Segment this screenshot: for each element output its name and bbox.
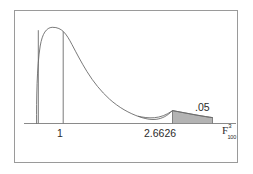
- axis-variable-label: F3100: [222, 124, 240, 138]
- axis-variable-superscript: 3: [228, 123, 231, 129]
- f-distribution-plot: [0, 0, 253, 174]
- tail-area-label: .05: [195, 101, 210, 113]
- axis-variable-subscript: 100: [227, 134, 236, 140]
- x-tick-label-critical-value: 2.6626: [144, 127, 176, 139]
- x-tick-label-one: 1: [57, 127, 63, 139]
